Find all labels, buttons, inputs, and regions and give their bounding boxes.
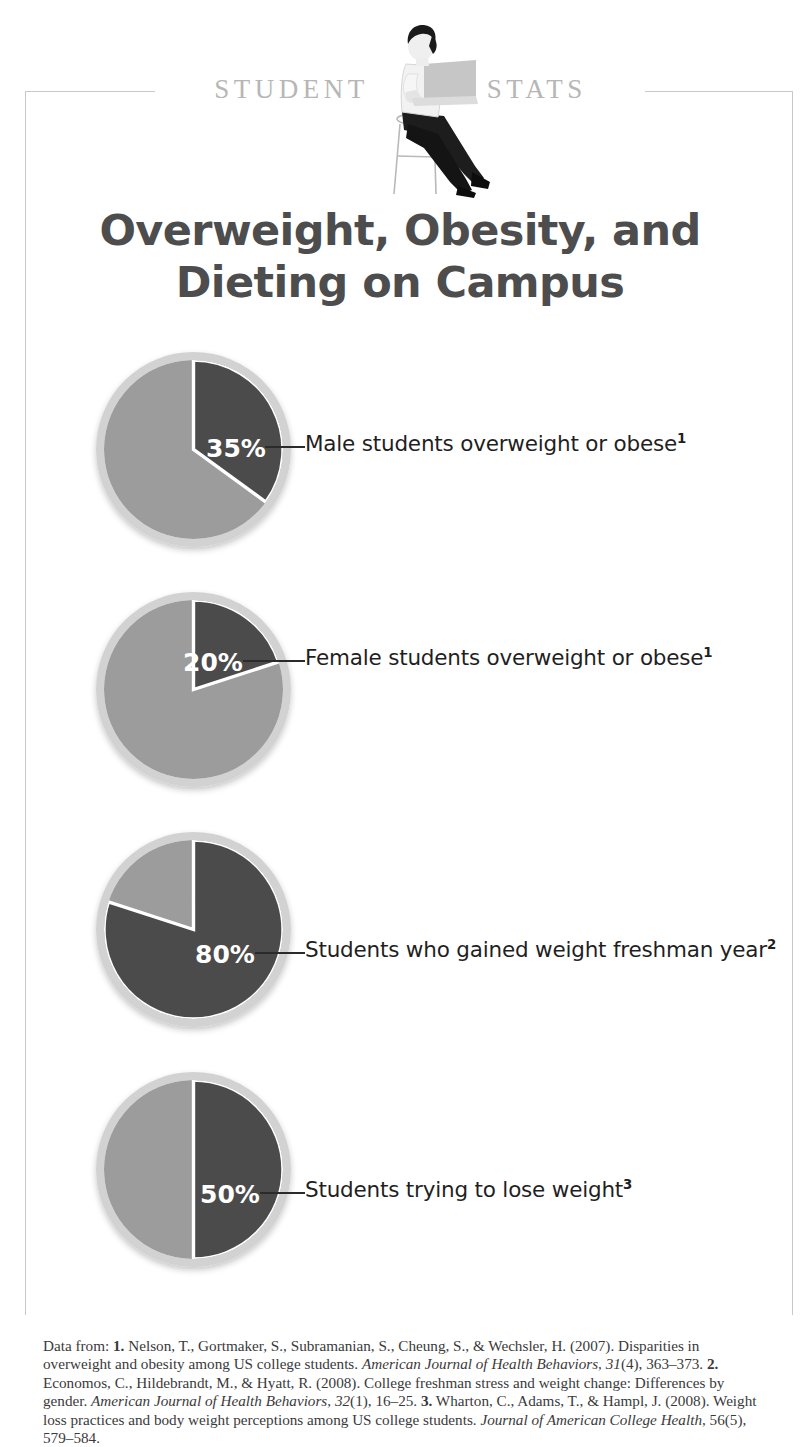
citations-prefix: Data from:	[43, 1337, 113, 1354]
pie-chart	[96, 1072, 291, 1267]
stat-footnote-marker: 3	[623, 1177, 632, 1192]
page-title-line-1: Overweight, Obesity, and	[60, 204, 740, 256]
citation-detail: (1), 16–25.	[350, 1392, 421, 1409]
pie-chart	[96, 832, 291, 1027]
citation-journal: Journal of American College Health,	[480, 1411, 705, 1428]
stat-description: Students who gained weight freshman year…	[305, 937, 776, 962]
leader-line	[265, 446, 305, 448]
stat-row: 80%Students who gained weight freshman y…	[0, 832, 801, 1042]
stat-footnote-marker: 1	[703, 645, 712, 660]
leader-line	[255, 952, 305, 954]
citations-block: Data from: 1. Nelson, T., Gortmaker, S.,…	[43, 1337, 769, 1447]
page-title: Overweight, Obesity, and Dieting on Camp…	[60, 204, 740, 308]
pie-percent-label: 50%	[200, 1180, 260, 1209]
pie-percent-label: 35%	[206, 434, 266, 463]
pie-slices	[104, 840, 283, 1019]
pie-slices	[104, 1080, 283, 1259]
stat-description-text: Students who gained weight freshman year	[305, 937, 767, 962]
citation-detail: (4), 363–373.	[621, 1355, 707, 1372]
stat-description: Students trying to lose weight3	[305, 1177, 632, 1202]
pie-percent-label: 80%	[195, 940, 255, 969]
stat-description-text: Male students overweight or obese	[305, 431, 677, 456]
pie-chart	[96, 592, 291, 787]
leader-line	[260, 1192, 305, 1194]
stat-description-text: Female students overweight or obese	[305, 645, 703, 670]
page-title-line-2: Dieting on Campus	[60, 256, 740, 308]
stat-description: Male students overweight or obese1	[305, 431, 686, 456]
pie-slices	[104, 600, 283, 779]
pie-percent-label: 20%	[183, 648, 243, 677]
stat-footnote-marker: 1	[677, 431, 686, 446]
citation-number: 3.	[421, 1392, 432, 1409]
leader-line	[243, 660, 305, 662]
citation-number: 2.	[707, 1355, 718, 1372]
citation-journal: American Journal of Health Behaviors, 31	[362, 1355, 621, 1372]
stat-row: 35%Male students overweight or obese1	[0, 352, 801, 562]
stat-footnote-marker: 2	[767, 937, 776, 952]
stat-row: 20%Female students overweight or obese1	[0, 592, 801, 802]
citation-journal: American Journal of Health Behaviors, 32	[91, 1392, 350, 1409]
stat-description: Female students overweight or obese1	[305, 645, 712, 670]
citation-number: 1.	[113, 1337, 124, 1354]
stat-row: 50%Students trying to lose weight3	[0, 1072, 801, 1282]
stat-description-text: Students trying to lose weight	[305, 1177, 623, 1202]
